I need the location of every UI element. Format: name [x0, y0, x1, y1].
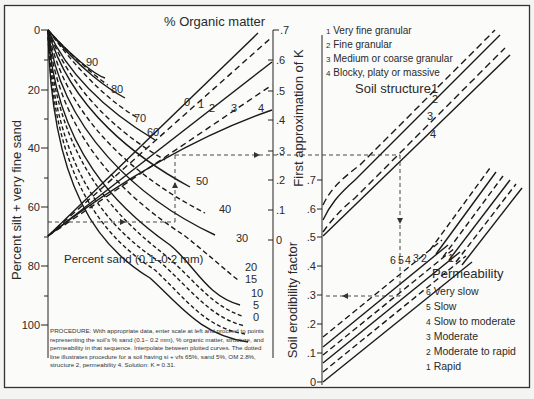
left-tick-40: 40	[28, 142, 40, 154]
structure-legend-1: 1 Very fine granular	[326, 25, 412, 36]
perm-legend-2: 2 Moderate to rapid	[426, 345, 516, 357]
left-tick-100: 100	[22, 319, 40, 331]
structure-line-label-1: 1	[431, 81, 438, 96]
sand-label-60: 60	[147, 126, 159, 138]
structure-line-label-3: 3	[427, 110, 433, 122]
left-tick-80: 80	[28, 260, 40, 272]
fa-tick-0.6: .6	[276, 54, 285, 66]
k-tick-0.4: .4	[307, 260, 316, 272]
perm-legend-3: 3 Moderate	[426, 330, 478, 342]
structure-line-label-4: 4	[430, 128, 436, 140]
sand-label-10: 10	[251, 287, 263, 299]
sand-label-80: 80	[111, 83, 123, 95]
perm-line-label-3: 3	[413, 252, 419, 264]
om-label-1: 1	[198, 98, 204, 110]
fa-tick-0: 0	[276, 234, 282, 246]
sand-label-40: 40	[219, 203, 231, 215]
organic-matter-title: % Organic matter	[164, 14, 266, 29]
perm-legend-1: 1 Rapid	[426, 360, 461, 372]
om-label-4: 4	[258, 102, 264, 114]
k-tick-0.6: .6	[307, 203, 316, 215]
om-label-0: 0	[184, 96, 190, 108]
perm-legend-6: 6 Very slow	[426, 285, 479, 297]
perm-line-label-1: 1	[448, 252, 454, 264]
left-tick-60: 60	[28, 201, 40, 213]
sand-label-70: 70	[134, 112, 146, 124]
fa-tick-0.5: .5	[276, 85, 285, 97]
left-axis-title: Percent silt + very fine sand	[9, 120, 24, 280]
sand-label-5: 5	[253, 299, 259, 311]
k-tick-0.3: .3	[307, 289, 316, 301]
perm-legend-5: 5 Slow	[426, 300, 457, 312]
sand-label-50: 50	[196, 175, 208, 187]
k-tick-0: 0	[310, 376, 316, 388]
k-tick-0.5: .5	[307, 231, 316, 243]
perm-legend-4: 4 Slow to moderate	[426, 315, 516, 327]
sand-label-30: 30	[236, 232, 248, 244]
sand-label-20: 20	[245, 261, 257, 273]
structure-legend-3: 3 Medium or coarse granular	[326, 53, 453, 64]
structure-legend-4: 4 Blocky, platy or massive	[326, 67, 440, 78]
sand-label-15: 15	[245, 273, 257, 285]
left-tick-20: 20	[28, 84, 40, 96]
procedure-note: PROCEDURE: With appropriate data, enter …	[50, 327, 265, 370]
fa-tick-0.4: .4	[276, 114, 285, 126]
om-label-2: 2	[209, 102, 215, 114]
sand-axis-title: Percent sand (0.1–0.2 mm)	[64, 253, 204, 265]
perm-line-label-4: 4	[405, 254, 411, 266]
perm-line-label-6: 6	[390, 254, 396, 266]
perm-line-label-2: 2	[421, 252, 427, 264]
permeability-title: Permeability	[432, 266, 504, 281]
left-tick-0: 0	[34, 24, 40, 36]
fa-tick-0.1: .1	[276, 204, 285, 216]
first-approx-title: First approximation of K	[291, 49, 306, 187]
sand-label-0: 0	[253, 311, 259, 323]
k-tick-0.7: .7	[307, 174, 316, 186]
sand-label-90: 90	[86, 56, 98, 68]
om-label-3: 3	[231, 102, 237, 114]
fa-tick-0.2: .2	[276, 174, 285, 186]
perm-line-label-5: 5	[398, 254, 404, 266]
k-axis-title: Soil erodibility factor	[285, 241, 300, 358]
structure-legend-2: 2 Fine granular	[326, 39, 393, 50]
k-tick-0.2: .2	[307, 318, 316, 330]
structure-title: Soil structure	[355, 81, 431, 96]
k-tick-0.1: .1	[307, 347, 316, 359]
fa-tick-0.7: .7	[280, 24, 289, 36]
